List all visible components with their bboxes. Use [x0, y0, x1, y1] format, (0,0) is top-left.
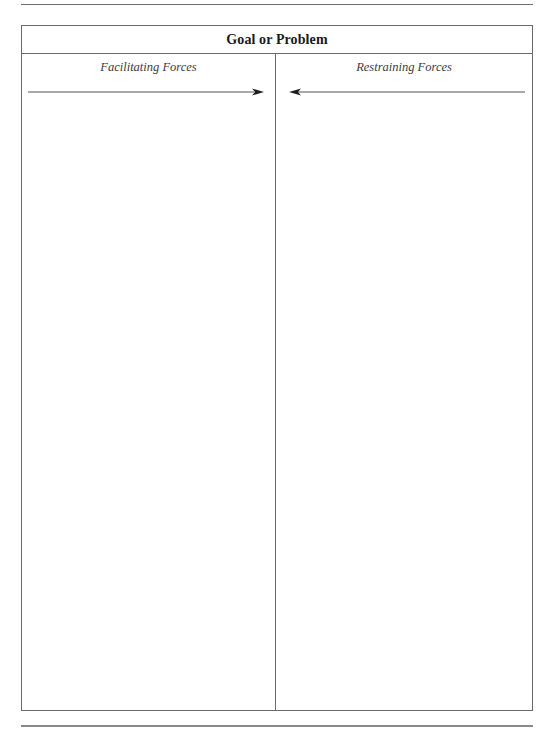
- goal-title: Goal or Problem: [226, 32, 327, 48]
- top-rule: [21, 4, 533, 5]
- facilitating-forces-label: Facilitating Forces: [22, 60, 275, 75]
- bottom-rule: [21, 725, 533, 727]
- restraining-forces-column[interactable]: Restraining Forces: [276, 54, 532, 710]
- force-field-table: Goal or Problem Facilitating Forces Rest…: [21, 25, 533, 711]
- arrow-left-icon: [288, 87, 526, 97]
- arrow-right-icon: [28, 87, 265, 97]
- table-header: Goal or Problem: [22, 26, 532, 54]
- restraining-forces-label: Restraining Forces: [276, 60, 532, 75]
- facilitating-forces-column[interactable]: Facilitating Forces: [22, 54, 275, 710]
